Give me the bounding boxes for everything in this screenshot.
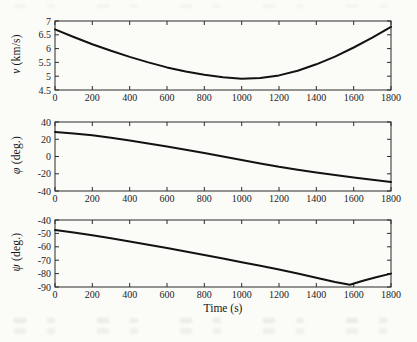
series-phi-angle bbox=[55, 132, 391, 182]
velocity-unit: (km/s) bbox=[10, 34, 22, 68]
subplot-velocity: 0200400600800100012001400160018004.555.5… bbox=[0, 13, 417, 109]
ticks bbox=[55, 220, 391, 287]
svg-text:-60: -60 bbox=[38, 241, 51, 252]
svg-text:800: 800 bbox=[197, 289, 212, 300]
ticks bbox=[55, 21, 391, 90]
figure-canvas: 0200400600800100012001400160018004.555.5… bbox=[0, 0, 417, 342]
svg-text:200: 200 bbox=[85, 193, 100, 204]
svg-text:600: 600 bbox=[160, 92, 175, 103]
svg-text:1200: 1200 bbox=[269, 289, 289, 300]
scan-artifact bbox=[0, 318, 417, 323]
ylabel-psi: ψ (deg.) bbox=[10, 202, 22, 302]
svg-text:7: 7 bbox=[46, 16, 51, 27]
svg-text:0: 0 bbox=[53, 92, 58, 103]
phi-symbol: φ bbox=[10, 167, 22, 174]
x-axis-title: Time (s) bbox=[55, 302, 391, 314]
svg-text:-80: -80 bbox=[38, 268, 51, 279]
svg-text:400: 400 bbox=[122, 289, 137, 300]
svg-text:1600: 1600 bbox=[344, 92, 364, 103]
svg-text:1000: 1000 bbox=[232, 193, 252, 204]
ylabel-velocity: v (km/s) bbox=[10, 4, 22, 104]
svg-text:4.5: 4.5 bbox=[39, 85, 52, 96]
svg-text:20: 20 bbox=[41, 134, 51, 145]
svg-text:1000: 1000 bbox=[232, 92, 252, 103]
plot-box bbox=[55, 21, 391, 90]
ylabel-phi: φ (deg.) bbox=[10, 105, 22, 205]
svg-text:5: 5 bbox=[46, 71, 51, 82]
svg-text:1200: 1200 bbox=[269, 193, 289, 204]
svg-text:800: 800 bbox=[197, 193, 212, 204]
svg-text:1400: 1400 bbox=[306, 193, 326, 204]
svg-text:200: 200 bbox=[85, 92, 100, 103]
svg-text:-40: -40 bbox=[38, 215, 51, 226]
svg-text:1600: 1600 bbox=[344, 289, 364, 300]
velocity-symbol: v bbox=[10, 69, 22, 74]
svg-text:1600: 1600 bbox=[344, 193, 364, 204]
svg-text:1400: 1400 bbox=[306, 92, 326, 103]
scan-artifact bbox=[0, 4, 417, 8]
svg-text:600: 600 bbox=[160, 289, 175, 300]
psi-symbol: ψ bbox=[10, 264, 22, 271]
svg-text:1000: 1000 bbox=[232, 289, 252, 300]
svg-text:400: 400 bbox=[122, 92, 137, 103]
svg-text:-90: -90 bbox=[38, 282, 51, 293]
svg-text:5.5: 5.5 bbox=[39, 57, 52, 68]
plot-box bbox=[55, 220, 391, 287]
svg-text:-20: -20 bbox=[38, 168, 51, 179]
svg-text:400: 400 bbox=[122, 193, 137, 204]
svg-text:1200: 1200 bbox=[269, 92, 289, 103]
svg-text:6: 6 bbox=[46, 43, 51, 54]
series-psi-angle bbox=[55, 230, 391, 285]
phi-unit: (deg.) bbox=[10, 136, 22, 167]
subplot-psi: 020040060080010001200140016001800-90-80-… bbox=[0, 212, 417, 302]
svg-text:-50: -50 bbox=[38, 228, 51, 239]
svg-text:1800: 1800 bbox=[381, 193, 401, 204]
svg-text:1400: 1400 bbox=[306, 289, 326, 300]
svg-text:800: 800 bbox=[197, 92, 212, 103]
svg-text:6.5: 6.5 bbox=[39, 29, 52, 40]
psi-unit: (deg.) bbox=[10, 233, 22, 264]
subplot-phi: 020040060080010001200140016001800-40-200… bbox=[0, 114, 417, 210]
series-velocity bbox=[55, 27, 391, 79]
svg-text:0: 0 bbox=[53, 289, 58, 300]
svg-text:0: 0 bbox=[46, 151, 51, 162]
scan-artifact bbox=[0, 328, 417, 334]
svg-text:-40: -40 bbox=[38, 186, 51, 197]
svg-text:200: 200 bbox=[85, 289, 100, 300]
svg-text:1800: 1800 bbox=[381, 92, 401, 103]
svg-text:0: 0 bbox=[53, 193, 58, 204]
svg-text:600: 600 bbox=[160, 193, 175, 204]
svg-text:1800: 1800 bbox=[381, 289, 401, 300]
svg-text:-70: -70 bbox=[38, 255, 51, 266]
svg-text:40: 40 bbox=[41, 117, 51, 128]
